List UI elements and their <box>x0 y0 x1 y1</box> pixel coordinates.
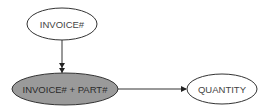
node-label: QUANTITY <box>198 84 247 95</box>
node-quantity[interactable]: QUANTITY <box>187 74 257 104</box>
arrowhead-icon <box>59 68 65 73</box>
arrowhead-icon <box>59 63 65 68</box>
node-label: INVOICE# <box>40 19 85 30</box>
node-composite-key[interactable]: INVOICE# + PART# <box>12 73 118 105</box>
dependency-diagram: INVOICE# INVOICE# + PART# QUANTITY <box>0 0 269 112</box>
edge-invoice-to-composite <box>59 40 65 73</box>
node-label: INVOICE# + PART# <box>23 84 109 95</box>
node-invoice[interactable]: INVOICE# <box>27 8 97 40</box>
